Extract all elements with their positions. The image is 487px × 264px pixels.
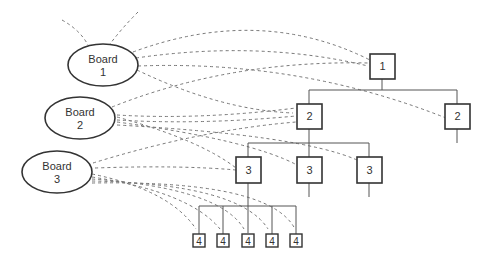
svg-text:3: 3 — [366, 164, 372, 176]
tree-node-level2-left: 2 — [297, 104, 322, 129]
tree-node-level3-b: 3 — [297, 157, 322, 183]
svg-text:3: 3 — [245, 164, 251, 176]
board-2-number: 2 — [77, 119, 83, 131]
board-2-label: Board — [65, 106, 94, 118]
svg-text:1: 1 — [379, 60, 385, 72]
board-1-number: 1 — [100, 66, 106, 78]
tree-node-level4-d: 4 — [266, 234, 278, 247]
svg-text:3: 3 — [306, 164, 312, 176]
tree-node-level4-c: 4 — [242, 234, 254, 247]
svg-text:4: 4 — [293, 236, 299, 247]
board-tree-diagram: Board 1 Board 2 Board 3 1 2 2 3 3 3 4 — [0, 0, 487, 264]
svg-text:2: 2 — [306, 110, 312, 122]
svg-text:4: 4 — [220, 236, 226, 247]
board-1-label: Board — [88, 53, 117, 65]
board-3-number: 3 — [54, 173, 60, 185]
tree-node-level1: 1 — [370, 54, 395, 79]
tree-node-level3-c: 3 — [357, 157, 382, 183]
dashed-connections — [62, 12, 446, 229]
board-2: Board 2 — [45, 97, 115, 139]
svg-text:2: 2 — [454, 110, 460, 122]
board-3-label: Board — [42, 160, 71, 172]
svg-text:4: 4 — [269, 236, 275, 247]
svg-text:4: 4 — [196, 236, 202, 247]
board-1: Board 1 — [68, 44, 138, 86]
tree-node-level4-a: 4 — [193, 234, 205, 247]
tree-node-level3-a: 3 — [236, 157, 261, 183]
svg-text:4: 4 — [245, 236, 251, 247]
tree-node-level2-right: 2 — [445, 104, 470, 129]
board-3: Board 3 — [22, 151, 92, 193]
tree-node-level4-b: 4 — [217, 234, 229, 247]
tree-node-level4-e: 4 — [290, 234, 302, 247]
